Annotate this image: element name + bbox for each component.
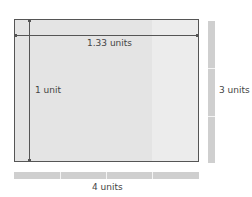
- width-label: 1.33 units: [87, 38, 132, 48]
- height-dimension-line: [29, 20, 30, 161]
- arrow-bottom-icon: [28, 159, 31, 162]
- right-bar-divider: [208, 116, 215, 117]
- bottom-bar-divider: [106, 172, 107, 179]
- right-bar-label: 3 units: [219, 85, 250, 95]
- width-dimension-line: [15, 35, 198, 36]
- bottom-bar-divider: [152, 172, 153, 179]
- right-bar-divider: [208, 68, 215, 69]
- right-bar: [208, 21, 215, 163]
- arrow-left-icon: [14, 34, 17, 37]
- bottom-bar-label: 4 units: [92, 182, 123, 192]
- arrow-right-icon: [196, 34, 199, 37]
- bottom-bar-divider: [60, 172, 61, 179]
- arrow-top-icon: [28, 19, 31, 22]
- light-region: [152, 20, 198, 161]
- height-label: 1 unit: [35, 85, 61, 95]
